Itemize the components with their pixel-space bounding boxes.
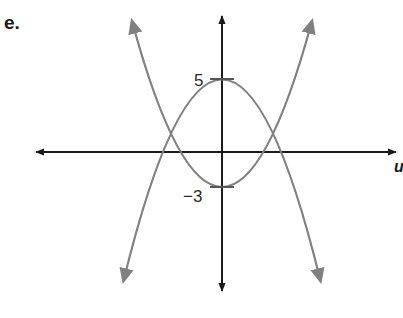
x-axis-label: u — [394, 158, 403, 175]
graph: 5 −3 u — [0, 0, 403, 318]
tick-label-5: 5 — [194, 71, 203, 90]
tick-label-neg3: −3 — [183, 187, 202, 206]
